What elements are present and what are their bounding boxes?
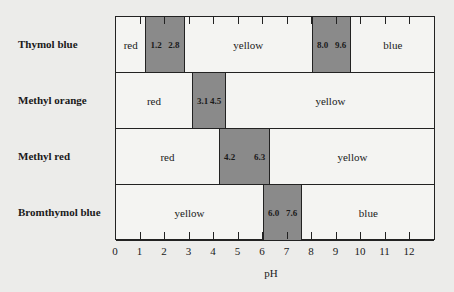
- tick-mark: [140, 232, 141, 239]
- tick-mark: [336, 17, 337, 24]
- range-low: 8.0: [317, 40, 328, 50]
- range-high: 7.6: [286, 208, 297, 218]
- transition-range: 6.07.6: [263, 185, 302, 240]
- tick-label: 3: [186, 245, 192, 257]
- tick-label: 5: [235, 245, 241, 257]
- indicator-name: Methyl orange: [18, 94, 87, 106]
- tick-mark: [262, 232, 263, 239]
- tick-mark: [140, 17, 141, 24]
- range-low: 4.2: [224, 152, 235, 162]
- transition-range: 3.14.5: [192, 73, 226, 128]
- indicator-row: red3.14.5yellow: [116, 73, 434, 129]
- indicator-name: Bromthymol blue: [18, 206, 101, 218]
- indicator-name: Thymol blue: [18, 38, 78, 50]
- range-low: 6.0: [268, 208, 279, 218]
- tick-mark: [238, 17, 239, 24]
- color-segment: yellow: [270, 129, 434, 184]
- tick-label: 9: [333, 245, 339, 257]
- indicator-row: red1.22.8yellow8.09.6blue: [116, 17, 434, 73]
- range-high: 4.5: [210, 96, 221, 106]
- color-segment: yellow: [226, 73, 434, 128]
- tick-mark: [311, 17, 312, 24]
- tick-mark: [238, 232, 239, 239]
- transition-range: 1.22.8: [145, 17, 184, 72]
- range-high: 6.3: [254, 152, 265, 162]
- indicator-row: red4.26.3yellow: [116, 129, 434, 185]
- color-segment: blue: [302, 185, 434, 240]
- transition-range: 8.09.6: [312, 17, 351, 72]
- tick-label: 6: [259, 245, 265, 257]
- tick-mark: [213, 17, 214, 24]
- color-segment: yellow: [185, 17, 312, 72]
- transition-range: 4.26.3: [219, 129, 270, 184]
- range-low: 3.1: [197, 96, 208, 106]
- color-segment: red: [116, 73, 192, 128]
- tick-label: 11: [379, 245, 390, 257]
- indicator-name: Methyl red: [18, 150, 70, 162]
- tick-label: 8: [308, 245, 314, 257]
- tick-mark: [262, 17, 263, 24]
- tick-mark: [409, 232, 410, 239]
- tick-label: 7: [284, 245, 290, 257]
- color-segment: red: [116, 17, 145, 72]
- tick-mark: [311, 232, 312, 239]
- range-high: 2.8: [168, 40, 179, 50]
- range-low: 1.2: [150, 40, 161, 50]
- tick-mark: [336, 232, 337, 239]
- indicator-chart: red1.22.8yellow8.09.6bluered3.14.5yellow…: [115, 16, 435, 240]
- tick-label: 1: [137, 245, 143, 257]
- tick-mark: [360, 232, 361, 239]
- tick-label: 10: [355, 245, 366, 257]
- tick-mark: [287, 232, 288, 239]
- tick-mark: [287, 17, 288, 24]
- color-segment: blue: [351, 17, 434, 72]
- tick-label: 4: [210, 245, 216, 257]
- tick-mark: [164, 232, 165, 239]
- color-segment: red: [116, 129, 219, 184]
- tick-label: 2: [161, 245, 167, 257]
- tick-mark: [213, 232, 214, 239]
- tick-mark: [385, 232, 386, 239]
- range-high: 9.6: [335, 40, 346, 50]
- tick-mark: [409, 17, 410, 24]
- tick-mark: [360, 17, 361, 24]
- tick-mark: [189, 232, 190, 239]
- tick-label: 0: [112, 245, 118, 257]
- tick-mark: [385, 17, 386, 24]
- tick-mark: [189, 17, 190, 24]
- tick-label: 12: [404, 245, 415, 257]
- x-axis-label: pH: [264, 267, 277, 279]
- tick-mark: [164, 17, 165, 24]
